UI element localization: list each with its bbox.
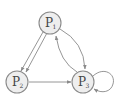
- state-graph: P 1 P 2 P 3: [0, 0, 125, 104]
- node-p1-subscript: 1: [53, 23, 57, 30]
- node-p3: P 3: [72, 71, 94, 93]
- node-p2: P 2: [6, 71, 28, 93]
- edges: [21, 29, 113, 92]
- edge-p3-self-loop: [93, 71, 113, 91]
- node-p2-subscript: 2: [20, 82, 24, 89]
- node-p3-subscript: 3: [86, 82, 90, 89]
- edge-p1-to-p2-a: [21, 32, 43, 71]
- edge-p1-to-p2-b: [26, 33, 47, 72]
- node-p1: P 1: [39, 12, 61, 34]
- edge-p1-to-p3: [60, 29, 85, 69]
- edge-p3-to-p1: [56, 36, 77, 72]
